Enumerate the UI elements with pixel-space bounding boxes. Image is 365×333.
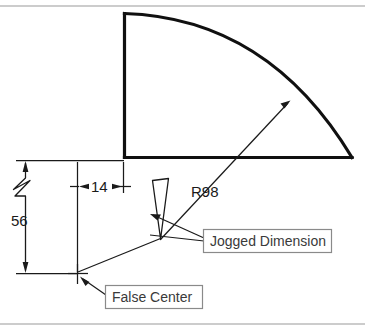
horizontal-dim-arrowhead-left [79, 184, 89, 189]
jogged-dimension-callout-label: Jogged Dimension [210, 233, 326, 249]
object-arc [125, 14, 353, 158]
vertical-dim-arrowhead-top [23, 161, 29, 172]
technical-drawing: R98 56 14 Jog [0, 0, 365, 333]
radius-dimension-label: R98 [191, 183, 219, 200]
false-center-callout-label: False Center [112, 289, 192, 305]
horizontal-dim-arrowhead-right [112, 184, 122, 189]
figure-canvas: R98 56 14 Jog [0, 0, 365, 333]
horizontal-dimension-label: 14 [91, 178, 108, 195]
radius-leader-lower-segment [78, 239, 161, 273]
radius-leader-upper-segment [161, 103, 289, 240]
false-center-callout-arrowhead [80, 277, 90, 287]
jogged-callout-arrowhead [150, 214, 161, 221]
radius-leader-jog [153, 179, 169, 240]
vertical-dim-arrowhead-bottom [23, 262, 29, 273]
vertical-dimension-label: 56 [11, 212, 28, 229]
radius-leader-arrowhead [281, 101, 291, 109]
